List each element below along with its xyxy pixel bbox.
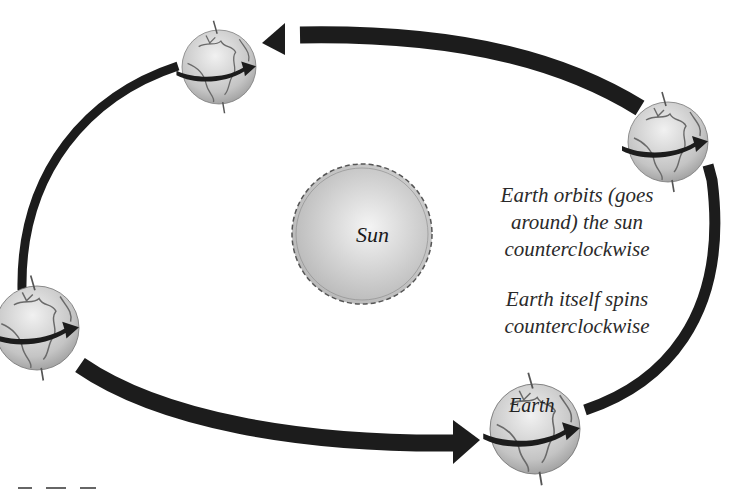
spin-caption-line-2: counterclockwise bbox=[462, 313, 692, 340]
orbit-arrow-right-to-top bbox=[262, 23, 640, 108]
earth-globe-left bbox=[0, 276, 79, 381]
orbit-caption-line-3: counterclockwise bbox=[462, 236, 692, 263]
earth-globe-top bbox=[176, 21, 256, 114]
cropped-footer-text bbox=[18, 481, 158, 489]
spin-caption-line-1: Earth itself spins bbox=[462, 286, 692, 313]
sun-label: Sun bbox=[356, 222, 389, 248]
earth-globe-bottom bbox=[483, 373, 580, 486]
orbit-caption-line-2: around) the sun bbox=[462, 209, 692, 236]
orbit-caption: Earth orbits (goes around) the sun count… bbox=[462, 182, 692, 263]
orbit-arrow-top-to-left bbox=[22, 66, 178, 290]
orbit-caption-line-1: Earth orbits (goes bbox=[462, 182, 692, 209]
orbit-arrow-left-to-bottom bbox=[80, 365, 480, 464]
spin-caption: Earth itself spins counterclockwise bbox=[462, 286, 692, 340]
earth-label: Earth bbox=[509, 394, 555, 417]
